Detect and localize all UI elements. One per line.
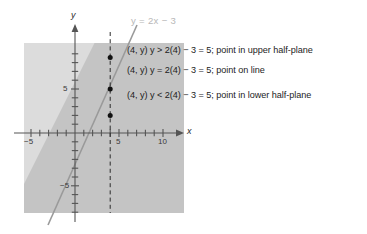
y-tick-label-minus5: −5 bbox=[60, 181, 69, 190]
coordinate-plane-svg bbox=[0, 0, 367, 234]
annotation-upper-half-plane: (4, y) y > 2(4) − 3 = 5; point in upper … bbox=[127, 46, 313, 55]
annotation-on-line: (4, y) y = 2(4) − 3 = 5; point on line bbox=[127, 66, 265, 75]
x-tick-label-5: 5 bbox=[116, 137, 120, 146]
y-axis-arrow bbox=[72, 24, 79, 32]
y-axis-label: y bbox=[71, 10, 76, 20]
line-equation-label: y = 2x − 3 bbox=[131, 15, 176, 26]
annotation-lower-half-plane: (4, y) y < 2(4) − 3 = 5; point in lower … bbox=[127, 91, 311, 100]
x-tick-label-minus5: −5 bbox=[24, 137, 33, 146]
graph-figure: y = 2x − 3 y x −5 5 10 5 −5 (4, y) y > 2… bbox=[0, 0, 367, 234]
x-tick-label-10: 10 bbox=[158, 137, 167, 146]
point-upper-half-plane bbox=[108, 55, 113, 60]
y-tick-label-5: 5 bbox=[63, 84, 67, 93]
point-on-line bbox=[108, 87, 113, 92]
x-axis-label: x bbox=[187, 126, 192, 136]
point-lower-half-plane bbox=[108, 113, 113, 118]
